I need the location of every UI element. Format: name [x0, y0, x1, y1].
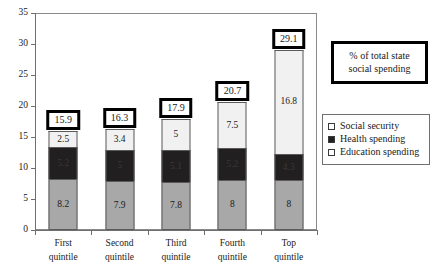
x-axis-category-label: Secondquintile	[91, 236, 147, 264]
bar-segment-value-label: 5.2	[57, 159, 69, 169]
bar-segment-value-label: 5	[117, 161, 122, 171]
bar-total-callout: 15.9	[46, 110, 80, 130]
x-axis-category-label-line: quintile	[261, 250, 317, 264]
y-axis-tick-label: 25	[0, 70, 28, 80]
x-axis-category-label-line: quintile	[91, 250, 147, 264]
bar-segment[interactable]: 7.5	[218, 102, 247, 149]
annotation-line-1: % of total state	[337, 49, 422, 62]
x-axis-line	[35, 230, 318, 231]
x-axis-category-label: Fourthquintile	[204, 236, 260, 264]
x-axis-tick-mark	[317, 231, 318, 235]
bar-group: 7.55.2820.7	[204, 13, 260, 230]
chart-legend: Social securityHealth spendingEducation …	[322, 114, 430, 165]
legend-item[interactable]: Health spending	[328, 133, 424, 145]
x-axis-category-label: Topquintile	[261, 236, 317, 264]
bar-group: 3.457.916.3	[91, 13, 147, 230]
x-axis-tick-mark	[261, 231, 262, 235]
annotation-line-2: social spending	[337, 62, 422, 75]
bar-segment-value-label: 7.5	[226, 121, 238, 131]
chart-figure: 05101520253035 2.55.28.215.93.457.916.35…	[0, 0, 434, 277]
x-axis-category-label-line: Top	[261, 236, 317, 250]
bars-container: 2.55.28.215.93.457.916.355.17.817.97.55.…	[35, 13, 317, 230]
bar-segment[interactable]: 5.1	[161, 150, 190, 182]
annotation-box: % of total state social spending	[331, 41, 428, 84]
bar-segment[interactable]: 8.2	[49, 179, 78, 230]
x-axis-tick-mark	[35, 231, 36, 235]
bar-group: 2.55.28.215.9	[35, 13, 91, 230]
x-axis-category-labels: FirstquintileSecondquintileThirdquintile…	[35, 236, 317, 268]
y-axis-tick-label: 15	[0, 132, 28, 142]
bar-segment[interactable]: 5.2	[218, 148, 247, 180]
bar-segment[interactable]: 7.8	[161, 182, 190, 230]
legend-item[interactable]: Education spending	[328, 146, 424, 158]
bar-segment[interactable]: 7.9	[105, 181, 134, 230]
bar-segment[interactable]: 5.2	[49, 147, 78, 179]
x-axis-category-label-line: Second	[91, 236, 147, 250]
x-axis-category-label-line: quintile	[148, 250, 204, 264]
bar-group: 55.17.817.9	[148, 13, 204, 230]
x-axis-category-label-line: quintile	[204, 250, 260, 264]
bar-segment[interactable]: 4.3	[274, 154, 303, 181]
bar-segment-value-label: 8	[230, 200, 235, 210]
stacked-bar[interactable]: 16.84.38	[274, 50, 303, 230]
bar-segment-value-label: 3.4	[114, 135, 126, 145]
bar-segment-value-label: 4.3	[283, 163, 295, 173]
x-axis-tick-mark	[91, 231, 92, 235]
x-axis-category-label-line: Third	[148, 236, 204, 250]
bar-segment-value-label: 8.2	[57, 200, 69, 210]
bar-total-callout: 29.1	[272, 29, 306, 49]
bar-segment-value-label: 5.1	[170, 162, 182, 172]
bar-segment-value-label: 5.2	[226, 160, 238, 170]
legend-swatch-icon	[328, 136, 335, 143]
bar-segment-value-label: 2.5	[57, 135, 69, 145]
bar-segment-value-label: 5	[174, 130, 179, 140]
legend-swatch-icon	[328, 149, 335, 156]
legend-item-label: Social security	[340, 120, 399, 132]
x-axis-category-label-line: quintile	[35, 250, 91, 264]
y-axis-tick-label: 0	[0, 225, 28, 235]
legend-item[interactable]: Social security	[328, 120, 424, 132]
stacked-bar[interactable]: 2.55.28.2	[49, 131, 78, 230]
x-axis-tick-mark	[148, 231, 149, 235]
bar-group: 16.84.3829.1	[261, 13, 317, 230]
legend-item-label: Education spending	[340, 146, 419, 158]
x-axis-category-label-line: Fourth	[204, 236, 260, 250]
y-axis-tick-label: 10	[0, 163, 28, 173]
y-axis-tick-label: 20	[0, 101, 28, 111]
bar-segment[interactable]: 5	[161, 119, 190, 150]
bar-total-callout: 17.9	[159, 98, 193, 118]
bar-segment-value-label: 16.8	[280, 97, 297, 107]
bar-segment-value-label: 7.9	[114, 201, 126, 211]
x-axis-tick-mark	[204, 231, 205, 235]
bar-segment-value-label: 8	[286, 200, 291, 210]
legend-item-label: Health spending	[340, 133, 405, 145]
bar-segment[interactable]: 5	[105, 150, 134, 181]
bar-segment[interactable]: 8	[218, 180, 247, 230]
y-axis-tick-label: 5	[0, 194, 28, 204]
bar-segment-value-label: 7.8	[170, 201, 182, 211]
stacked-bar[interactable]: 7.55.28	[218, 102, 247, 230]
bar-total-callout: 20.7	[216, 81, 250, 101]
bar-segment[interactable]: 3.4	[105, 129, 134, 150]
bar-segment[interactable]: 2.5	[49, 131, 78, 147]
bar-total-callout: 16.3	[103, 108, 137, 128]
bar-segment[interactable]: 8	[274, 180, 303, 230]
y-axis-tick-label: 30	[0, 39, 28, 49]
x-axis-category-label: Thirdquintile	[148, 236, 204, 264]
bar-segment[interactable]: 16.8	[274, 50, 303, 154]
legend-swatch-icon	[328, 123, 335, 130]
x-axis-category-label-line: First	[35, 236, 91, 250]
stacked-bar[interactable]: 55.17.8	[161, 119, 190, 230]
y-axis-tick-label: 35	[0, 8, 28, 18]
stacked-bar[interactable]: 3.457.9	[105, 129, 134, 230]
x-axis-category-label: Firstquintile	[35, 236, 91, 264]
